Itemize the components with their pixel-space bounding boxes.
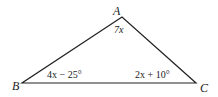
vertex-label-b: B [12, 79, 20, 93]
angle-label-c: 2x + 10° [135, 69, 170, 80]
triangle-diagram: A B C 7x 4x − 25° 2x + 10° [0, 0, 218, 97]
angle-label-b: 4x − 25° [47, 69, 82, 80]
vertex-label-c: C [200, 81, 209, 95]
vertex-label-a: A [112, 4, 121, 18]
angle-label-a: 7x [114, 24, 124, 35]
